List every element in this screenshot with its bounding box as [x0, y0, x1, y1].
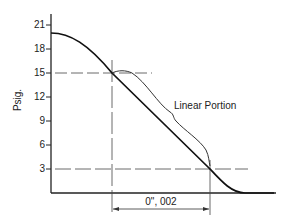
tick-label-12: 12	[34, 91, 46, 102]
tick-label-15: 15	[34, 67, 46, 78]
arrowhead-right-icon	[203, 207, 209, 211]
linear-portion-label: Linear Portion	[174, 100, 236, 111]
y-axis-title: Psig.	[12, 89, 23, 111]
tick-label-18: 18	[34, 43, 46, 54]
tick-label-3: 3	[39, 163, 45, 174]
arrowhead-left-icon	[113, 207, 119, 211]
linear-portion-bracket	[112, 71, 210, 166]
tick-label-21: 21	[34, 19, 46, 30]
tick-label-6: 6	[39, 139, 45, 150]
pressure-chart: 21 18 15 12 9 6 3 Psig. Linear Portion 0…	[0, 0, 283, 224]
y-ticks	[46, 25, 51, 169]
dimension-label: 0", 002	[145, 196, 177, 207]
tick-label-9: 9	[39, 115, 45, 126]
y-tick-labels: 21 18 15 12 9 6 3	[34, 19, 46, 174]
